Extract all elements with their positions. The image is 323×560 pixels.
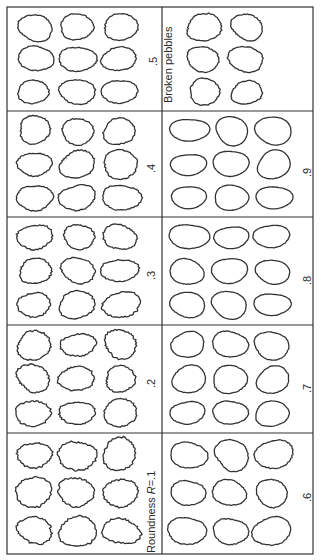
pebble-outline: [255, 117, 291, 145]
label-roundness-03: .3: [146, 271, 157, 280]
pebble-outline: [256, 401, 290, 427]
pebble-outline: [211, 291, 246, 319]
pebble-outline: [187, 13, 222, 41]
pebble-outline: [213, 519, 249, 545]
pebble-outline: [18, 80, 50, 104]
pebble-outline: [15, 477, 51, 508]
pebble-outline: [256, 479, 287, 508]
cell-r09: [170, 117, 294, 211]
pebble-outline: [16, 401, 52, 427]
pebble-outline: [61, 14, 95, 40]
pebble-outline: [231, 14, 263, 41]
pebble-outline: [169, 225, 210, 249]
pebble-outline: [227, 46, 263, 72]
cell-r08: [169, 225, 291, 320]
pebble-outline: [170, 402, 205, 425]
pebble-outline: [254, 440, 293, 469]
pebble-outline: [59, 47, 97, 71]
cell-r03: [16, 224, 140, 319]
pebble-outline: [170, 120, 210, 142]
pebble-outline: [60, 334, 97, 357]
pebble-outline: [253, 225, 290, 248]
pebble-outline: [187, 47, 219, 73]
pebble-outline: [214, 227, 249, 249]
pebble-outline: [18, 15, 53, 42]
label-roundness-05: .5: [148, 57, 159, 66]
pebble-outline: [103, 436, 136, 470]
pebble-outline: [58, 185, 95, 211]
pebble-outline: [254, 294, 291, 316]
pebble-outline: [100, 47, 136, 71]
pebble-outline: [214, 365, 248, 393]
pebble-outline: [168, 518, 207, 545]
pebble-outline: [215, 185, 249, 210]
cell-r06: [168, 439, 293, 545]
cell-r05: [18, 14, 139, 105]
cell-r02: [16, 329, 137, 427]
pebble-outline: [254, 332, 289, 360]
pebble-outline: [59, 402, 96, 424]
pebble-outline: [17, 292, 51, 317]
pebble-outline: [212, 479, 247, 505]
pebble-outline: [171, 442, 208, 468]
pebble-outline: [212, 331, 248, 357]
pebble-outline: [64, 225, 96, 250]
pebble-outline: [211, 259, 247, 284]
pebble-outline: [257, 150, 290, 179]
pebble-outline: [16, 364, 50, 393]
pebble-outline: [59, 150, 94, 179]
label-roundness-06: .6: [302, 493, 313, 502]
pebble-outline: [103, 479, 139, 508]
pebble-outline: [170, 155, 206, 176]
label-roundness-07: .7: [302, 384, 313, 393]
pebble-outline: [213, 151, 249, 176]
pebble-outline: [20, 115, 51, 144]
pebble-outline: [16, 153, 52, 176]
pebble-outline: [103, 224, 138, 249]
pebble-outline: [104, 150, 137, 180]
pebble-outline: [171, 187, 206, 209]
cell-r07: [170, 331, 289, 426]
pebble-outline: [16, 443, 53, 469]
pebble-outline: [231, 80, 263, 104]
outer-border: [7, 7, 313, 554]
pebble-outline: [58, 478, 95, 508]
pebble-outline: [252, 516, 291, 545]
label-roundness-08: .8: [302, 276, 313, 285]
label-broken-pebbles: Broken pebbles: [163, 27, 174, 103]
label-roundness-09: .9: [302, 168, 313, 177]
pebble-outline: [102, 518, 143, 544]
pebble-outline: [58, 516, 96, 547]
pebble-outline: [17, 330, 51, 360]
pebble-outline: [59, 291, 95, 320]
pebble-outline: [100, 260, 139, 282]
pebble-outline: [16, 186, 54, 211]
label-roundness-04: .4: [146, 164, 157, 173]
label-roundness-02: .2: [146, 379, 157, 388]
pebble-outline: [104, 398, 137, 427]
cell-r04: [16, 115, 142, 211]
pebble-outline: [57, 366, 94, 391]
pebble-outline: [170, 258, 204, 284]
pebble-outline: [16, 225, 53, 250]
pebble-outline: [256, 366, 289, 394]
pebble-outline: [58, 80, 95, 105]
pebble-outline: [62, 119, 94, 146]
pebble-outline: [171, 331, 204, 357]
pebble-outline: [101, 81, 138, 104]
pebble-outline: [16, 516, 52, 544]
pebble-outline: [103, 118, 136, 145]
pebble-outline: [171, 481, 206, 506]
label-roundness-01: Roundness R=.1: [146, 471, 157, 553]
pebble-outline: [103, 185, 143, 210]
pebble-outline: [101, 292, 140, 318]
cell-r01: [15, 436, 142, 546]
pebble-outline: [106, 365, 136, 392]
pebble-outline: [256, 187, 293, 209]
pebble-outline: [170, 292, 205, 318]
pebble-outline: [255, 260, 290, 284]
pebble-outline: [104, 14, 138, 41]
pebble-outline: [214, 439, 248, 471]
pebble-outline: [57, 441, 97, 471]
pebble-outline: [213, 401, 249, 424]
